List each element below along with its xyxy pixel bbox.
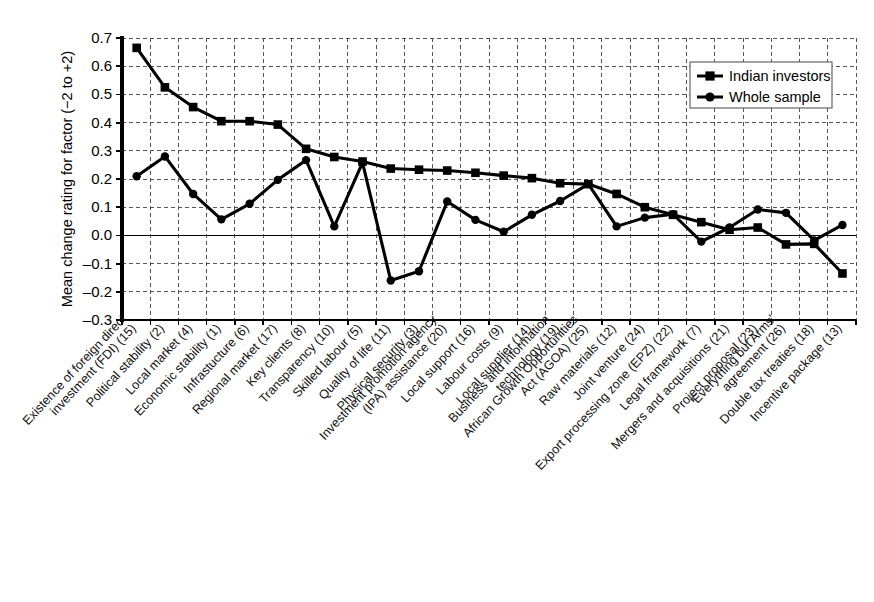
data-point-marker [753,223,762,232]
data-point-marker [612,190,621,199]
data-point-marker [556,179,565,188]
data-point-marker [387,276,395,284]
y-tick-label: 0.6 [91,57,112,74]
data-point-marker [838,221,846,229]
data-point-marker [274,120,283,129]
data-point-marker [132,172,140,180]
data-point-marker [810,236,818,244]
data-point-marker [499,228,507,236]
data-point-marker [274,176,282,184]
data-point-marker [245,200,253,208]
chart-figure: 0.70.60.50.40.30.20.10.0–0.1–0.2–0.3 Mea… [0,0,874,602]
legend-marker-circle [705,92,714,101]
data-point-marker [697,237,705,245]
data-point-marker [471,168,480,177]
data-point-marker [245,117,254,126]
data-point-marker [386,164,395,173]
data-point-marker [584,180,592,188]
data-point-marker [754,205,762,213]
data-point-marker [782,209,790,217]
y-tick-label: 0.2 [91,170,112,187]
data-point-marker [358,158,366,166]
y-tick-label: 0.4 [91,114,112,131]
y-axis-title: Mean change rating for factor (−2 to +2) [59,51,75,307]
data-point-marker [189,103,198,112]
data-point-marker [217,117,226,126]
data-point-marker [528,211,536,219]
data-point-marker [641,203,650,212]
data-point-marker [161,152,169,160]
line-chart: 0.70.60.50.40.30.20.10.0–0.1–0.2–0.3 Mea… [0,0,874,602]
data-point-marker [499,171,508,180]
chart-legend[interactable]: Indian investorsWhole sample [690,62,832,108]
data-point-marker [556,197,564,205]
data-point-marker [782,240,791,249]
data-point-marker [528,174,537,183]
data-point-marker [838,269,847,278]
data-point-marker [443,166,452,175]
data-point-marker [302,145,311,154]
y-axis-title-text: Mean change rating for factor (−2 to +2) [59,51,75,307]
data-point-marker [641,213,649,221]
x-axis-category-labels: Existence of foreign directinvestment (F… [20,312,845,473]
data-point-marker [471,216,479,224]
y-tick-label: 0.1 [91,198,112,215]
y-tick-label: –0.1 [83,255,112,272]
data-point-marker [161,83,170,92]
data-point-marker [415,165,424,174]
data-point-marker [697,218,706,227]
legend-label: Indian investors [729,68,831,84]
y-tick-label: 0.3 [91,142,112,159]
legend-marker-square [705,71,714,80]
data-point-marker [443,197,451,205]
data-point-marker [612,222,620,230]
data-point-marker [330,153,339,162]
y-tick-label: 0.5 [91,85,112,102]
y-tick-label: 0.7 [91,29,112,46]
data-point-marker [330,222,338,230]
y-tick-label: –0.2 [83,283,112,300]
data-point-marker [725,223,733,231]
data-point-marker [217,215,225,223]
data-point-marker [132,44,141,53]
data-point-marker [189,190,197,198]
y-tick-label: 0.0 [91,226,112,243]
data-point-marker [415,267,423,275]
data-point-marker [669,210,677,218]
data-point-marker [302,156,310,164]
y-axis-ticks: 0.70.60.50.40.30.20.10.0–0.1–0.2–0.3 [83,29,122,328]
legend-label: Whole sample [729,89,821,105]
